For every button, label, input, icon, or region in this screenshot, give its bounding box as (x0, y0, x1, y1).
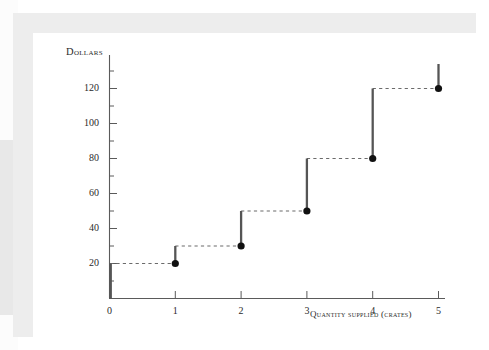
y-tick-label-60: 60 (73, 187, 99, 198)
y-tick-label-20: 20 (73, 257, 99, 268)
data-point-5 (435, 85, 442, 92)
data-point-3 (303, 207, 310, 214)
data-point-4 (369, 155, 376, 162)
x-axis-title: Quantity supplied (crates) (310, 309, 412, 319)
slide-frame: 120 100 80 60 40 20 0 1 2 3 4 5 Dollars … (13, 13, 476, 337)
y-tick-label-120: 120 (73, 82, 99, 93)
y-tick-label-80: 80 (73, 152, 99, 163)
y-tick-label-100: 100 (73, 117, 99, 128)
x-tick-label-5: 5 (430, 305, 448, 316)
x-tick-label-2: 2 (232, 305, 250, 316)
x-tick-label-1: 1 (166, 305, 184, 316)
data-point-2 (238, 242, 245, 249)
chart-axes (109, 55, 445, 299)
step-risers (111, 64, 439, 299)
step-supply-chart (33, 33, 482, 343)
y-tick-label-40: 40 (73, 222, 99, 233)
x-tick-label-0: 0 (101, 305, 119, 316)
data-point-1 (172, 260, 179, 267)
x-major-ticks (175, 291, 438, 299)
chart-figure: 120 100 80 60 40 20 0 1 2 3 4 5 Dollars … (33, 33, 482, 343)
step-treads (110, 89, 439, 264)
y-minor-ticks (110, 71, 115, 281)
y-axis-title: Dollars (66, 46, 103, 57)
